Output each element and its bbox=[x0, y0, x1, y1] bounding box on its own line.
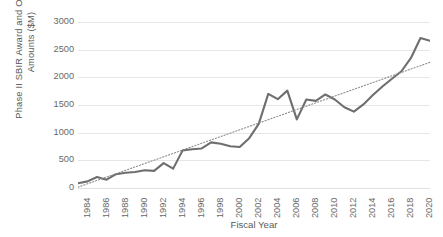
x-tick-label: 1992 bbox=[158, 188, 168, 218]
x-axis-tick-labels: 1984198619881990199219941996199820002002… bbox=[78, 190, 430, 220]
x-tick-label: 2010 bbox=[329, 188, 339, 218]
y-tick-label: 1000 bbox=[40, 128, 74, 137]
x-tick-label: 2016 bbox=[386, 188, 396, 218]
y-tick-label: 500 bbox=[40, 155, 74, 164]
y-axis-title-line-2: Amounts ($M) bbox=[26, 0, 38, 132]
x-tick-label: 2000 bbox=[234, 188, 244, 218]
y-axis-title-line-1: Phase II SBIR Award and Obligated bbox=[14, 0, 26, 132]
y-tick-label: 2500 bbox=[40, 45, 74, 54]
x-tick-label: 1984 bbox=[82, 188, 92, 218]
x-tick-label: 2018 bbox=[405, 188, 415, 218]
x-tick-label: 2020 bbox=[424, 188, 434, 218]
y-tick-label: 2000 bbox=[40, 72, 74, 81]
x-tick-label: 2008 bbox=[310, 188, 320, 218]
x-tick-label: 2002 bbox=[253, 188, 263, 218]
x-tick-label: 1998 bbox=[215, 188, 225, 218]
trendline-path bbox=[78, 62, 430, 187]
x-tick-label: 2014 bbox=[367, 188, 377, 218]
x-tick-label: 1986 bbox=[101, 188, 111, 218]
plot-area bbox=[78, 22, 430, 188]
series-line-path bbox=[78, 38, 430, 183]
x-axis-title: Fiscal Year bbox=[78, 219, 430, 230]
x-tick-label: 1990 bbox=[139, 188, 149, 218]
x-tick-label: 1996 bbox=[196, 188, 206, 218]
y-tick-label: 3000 bbox=[40, 17, 74, 26]
y-tick-label: 0 bbox=[40, 183, 74, 192]
x-tick-label: 2006 bbox=[291, 188, 301, 218]
y-axis-tick-labels: 300025002000150010005000 bbox=[38, 0, 74, 237]
x-tick-label: 1988 bbox=[120, 188, 130, 218]
series-layer bbox=[78, 22, 430, 188]
x-tick-label: 1994 bbox=[177, 188, 187, 218]
y-tick-label: 1500 bbox=[40, 100, 74, 109]
chart-container: Phase II SBIR Award and Obligated Amount… bbox=[0, 0, 443, 237]
x-tick-label: 2012 bbox=[348, 188, 358, 218]
x-tick-label: 2004 bbox=[272, 188, 282, 218]
